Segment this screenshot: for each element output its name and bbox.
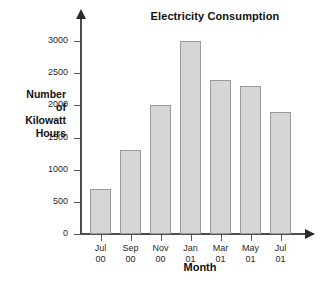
chart-title: Electricity Consumption: [130, 10, 300, 22]
bar: [120, 150, 141, 234]
bar: [240, 86, 261, 234]
y-axis-arrow-icon: [76, 9, 86, 19]
y-axis-tick-label: 2000: [28, 99, 68, 109]
x-axis-tick: [251, 235, 252, 241]
y-axis-tick-label: 1000: [28, 164, 68, 174]
y-axis-tick: [74, 234, 81, 235]
bar: [210, 80, 231, 234]
bar-chart: Electricity Consumption Number of Kilowa…: [0, 0, 325, 282]
bar: [150, 105, 171, 234]
x-axis-tick-label: Jul01: [261, 243, 301, 265]
x-axis-tick: [221, 235, 222, 241]
y-axis-tick: [74, 105, 81, 106]
x-axis-tick: [101, 235, 102, 241]
y-axis-tick: [74, 41, 81, 42]
x-axis-tick-year: 01: [261, 254, 301, 265]
x-axis-tick-month: Jul: [261, 243, 301, 254]
y-axis-title-line-3: Kilowatt: [2, 114, 66, 127]
y-axis-tick: [74, 138, 81, 139]
x-axis-tick: [191, 235, 192, 241]
y-axis-tick-label: 3000: [28, 35, 68, 45]
y-axis-tick-label: 500: [28, 196, 68, 206]
x-axis-tick: [131, 235, 132, 241]
y-axis-tick: [74, 73, 81, 74]
y-axis-tick-label: 1500: [28, 132, 68, 142]
bar: [90, 189, 111, 234]
x-axis-tick: [161, 235, 162, 241]
y-axis-tick: [74, 170, 81, 171]
x-axis-tick: [281, 235, 282, 241]
y-axis-tick-label: 2500: [28, 67, 68, 77]
bar: [270, 112, 291, 234]
y-axis-tick-label: 0: [28, 228, 68, 238]
bar: [180, 41, 201, 234]
y-axis-tick: [74, 202, 81, 203]
x-axis-arrow-icon: [305, 229, 315, 239]
